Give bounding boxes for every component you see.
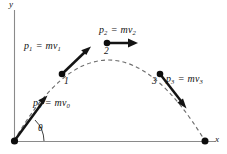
p0-velocity-sub: 0 xyxy=(66,102,69,109)
p1-velocity-sub: 1 xyxy=(57,45,60,52)
x-axis-label: x xyxy=(215,135,219,144)
p1-symbol-sub: 1 xyxy=(29,45,32,52)
p3-mass: m xyxy=(188,73,195,84)
momentum-label-p0: p0 = mv0 xyxy=(33,98,70,108)
point-label-1: 1 xyxy=(64,77,69,87)
p3-symbol-sub: 3 xyxy=(171,78,174,85)
momentum-vector-p2 xyxy=(107,39,138,48)
point-marker-3 xyxy=(157,71,164,78)
point-marker-origin xyxy=(11,137,18,144)
p0-mass: m xyxy=(55,97,62,108)
projectile-momentum-figure: y x θ 1 2 3 p0 = mv0 p1 = mv1 p2 = mv2 p… xyxy=(0,0,227,154)
p2-symbol-sub: 2 xyxy=(104,29,107,36)
angle-theta-label: θ xyxy=(38,124,43,134)
momentum-vector-p1 xyxy=(62,47,91,75)
point-marker-landing xyxy=(202,138,209,145)
p0-symbol-sub: 0 xyxy=(38,102,41,109)
momentum-label-p3: p3 = mv3 xyxy=(166,74,203,84)
y-axis-label: y xyxy=(9,0,13,9)
point-label-3: 3 xyxy=(152,77,157,87)
p2-velocity-sub: 2 xyxy=(132,29,135,36)
p2-mass: m xyxy=(121,24,128,35)
momentum-label-p1: p1 = mv1 xyxy=(24,41,61,51)
momentum-label-p2: p2 = mv2 xyxy=(99,25,136,35)
point-label-2: 2 xyxy=(104,47,109,57)
p3-velocity-sub: 3 xyxy=(199,78,202,85)
p1-mass: m xyxy=(46,40,53,51)
